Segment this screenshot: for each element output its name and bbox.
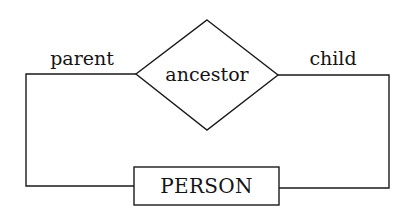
er-diagram: ancestor PERSON parent child bbox=[0, 0, 410, 216]
role-label-child: child bbox=[309, 47, 356, 69]
entity-label: PERSON bbox=[160, 174, 253, 198]
relationship-label: ancestor bbox=[165, 63, 249, 85]
child-connector-line bbox=[278, 75, 389, 188]
role-label-parent: parent bbox=[50, 47, 114, 69]
parent-connector-line bbox=[26, 74, 136, 186]
